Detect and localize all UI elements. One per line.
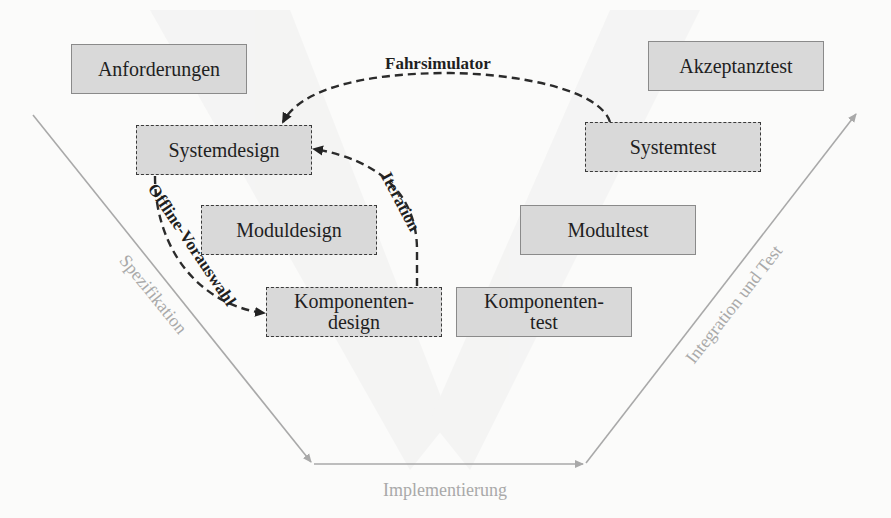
box-label: Komponenten- test [484,291,604,333]
box-anforderungen: Anforderungen [71,44,247,94]
box-label: Systemtest [630,137,717,158]
implementierung-label: Implementierung [383,480,507,501]
fahrsimulator-label: Fahrsimulator [385,54,491,74]
box-label: Modultest [567,220,648,241]
box-moduldesign: Moduldesign [201,205,377,255]
box-modultest: Modultest [520,205,696,255]
fahrsimulator-arrow [283,73,610,122]
box-label: Moduldesign [236,220,342,241]
box-akzeptanztest: Akzeptanztest [648,41,824,91]
v-model-diagram: Anforderungen Systemdesign Moduldesign K… [0,0,891,518]
box-komponentendesign: Komponenten- design [266,287,442,337]
box-label: Anforderungen [98,59,220,80]
box-label: Systemdesign [168,140,279,161]
box-systemdesign: Systemdesign [136,125,312,175]
box-label: Akzeptanztest [679,56,792,77]
box-komponententest: Komponenten- test [456,287,632,337]
box-systemtest: Systemtest [585,122,761,172]
box-label: Komponenten- design [294,291,414,333]
